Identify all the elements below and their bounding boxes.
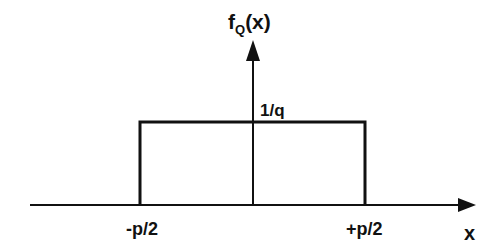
uniform-pdf-diagram: fQ(x) 1/q -p/2 +p/2 x	[0, 0, 499, 252]
x-axis-label: x	[464, 222, 475, 244]
height-label: 1/q	[260, 101, 285, 120]
y-axis-arrowhead-icon	[246, 40, 260, 61]
y-axis-label: fQ(x)	[228, 10, 271, 37]
x-axis-arrowhead-icon	[458, 198, 476, 212]
right-bound-label: +p/2	[346, 219, 383, 239]
left-bound-label: -p/2	[126, 219, 158, 239]
